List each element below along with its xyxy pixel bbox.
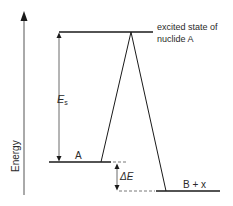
level-a-label: A (75, 150, 82, 161)
es-label: Es (57, 93, 68, 106)
axis-label: Energy (10, 140, 21, 172)
excited-state-label-1: excited state of (157, 22, 218, 32)
delta-e-arrow (115, 164, 120, 191)
energy-axis (21, 11, 28, 195)
delta-e-label: ΔE (119, 171, 134, 182)
axis-arrow-icon (21, 11, 28, 21)
es-arrow-up-icon (57, 33, 62, 39)
es-label-sub: s (64, 99, 68, 106)
es-arrow-down-icon (57, 156, 62, 162)
delta-e-arrow-up-icon (115, 164, 120, 170)
level-b-label: B + x (183, 179, 206, 190)
delta-e-arrow-down-icon (115, 185, 120, 191)
excited-state-label-2: nuclide A (157, 34, 194, 44)
reaction-path (101, 32, 166, 191)
energy-level-diagram: Energy excited state of nuclide A Es A Δ… (0, 0, 233, 206)
